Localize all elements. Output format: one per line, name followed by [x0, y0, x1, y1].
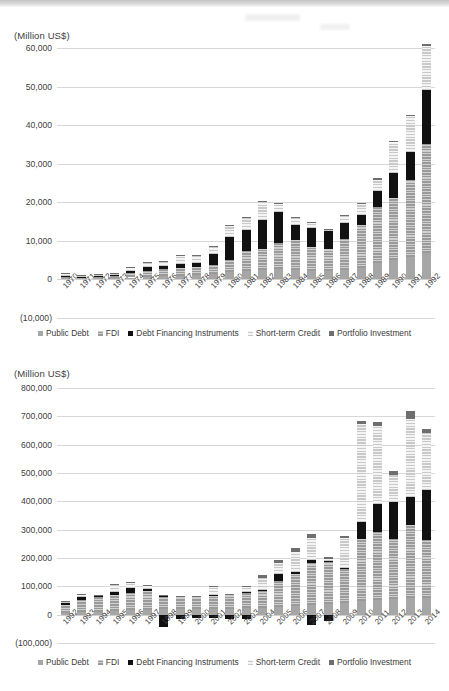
- bar-segment: [94, 274, 103, 275]
- bar-segment: [159, 597, 168, 610]
- bar-stack: [61, 388, 70, 643]
- legend-label: Debt Financing Instruments: [136, 328, 238, 338]
- legend-item[interactable]: Short-term Credit: [248, 328, 320, 338]
- legend-swatch-icon: [128, 660, 133, 665]
- bar-segment: [274, 574, 283, 581]
- bar-stack: [159, 388, 168, 643]
- bar-segment: [389, 539, 398, 599]
- legend-item[interactable]: FDI: [98, 328, 120, 338]
- bar-stack: [406, 388, 415, 643]
- bar-segment: [143, 591, 152, 609]
- bar-segment: [324, 249, 333, 272]
- bar-segment: [357, 225, 366, 267]
- bar-segment: [389, 141, 398, 142]
- legend-label: Portfolio Investment: [337, 657, 411, 667]
- bar-segment: [77, 594, 86, 595]
- bar-segment: [307, 560, 316, 563]
- bar-segment: [422, 46, 431, 91]
- bar-segment: [225, 226, 234, 238]
- y-axis-tick-label: (10,000): [5, 313, 52, 323]
- bar-segment: [110, 592, 119, 594]
- bar-segment: [143, 585, 152, 589]
- bar-stack: [77, 388, 86, 643]
- gridline: [57, 643, 435, 644]
- bar-segment: [192, 256, 201, 263]
- y-axis-tick-label: 10,000: [5, 236, 52, 246]
- bar-segment: [274, 203, 283, 211]
- bar-segment: [192, 255, 201, 256]
- bar-segment: [242, 251, 251, 271]
- bar-segment: [274, 563, 283, 573]
- bar-stack: [324, 388, 333, 643]
- bar-segment: [258, 249, 267, 270]
- y-axis-tick-label: (100,000): [5, 638, 52, 648]
- bar-segment: [209, 246, 218, 247]
- bar-segment: [225, 596, 234, 609]
- plot-area-bottom: 800,000700,000600,000500,000400,000300,0…: [57, 388, 435, 643]
- bar-segment: [126, 583, 135, 589]
- bar-segment: [422, 540, 431, 598]
- bar-segment: [110, 584, 119, 585]
- bar-segment: [373, 180, 382, 191]
- bar-segment: [389, 502, 398, 539]
- bar-stack: [389, 388, 398, 643]
- legend-item[interactable]: FDI: [98, 657, 120, 667]
- bar-segment: [176, 256, 185, 265]
- bar-segment: [209, 596, 218, 609]
- bar-segment: [225, 237, 234, 259]
- bar-segment: [242, 592, 251, 593]
- legend-item[interactable]: Short-term Credit: [248, 657, 320, 667]
- y-axis-tick-label: 0: [5, 274, 52, 284]
- bar-segment: [357, 539, 366, 601]
- bar-segment: [422, 433, 431, 490]
- legend-swatch-icon: [38, 660, 43, 665]
- bar-segment: [61, 603, 70, 605]
- bar-segment: [126, 268, 135, 271]
- legend-label: Public Debt: [46, 657, 89, 667]
- bar-segment: [159, 269, 168, 276]
- legend-swatch-icon: [329, 331, 334, 336]
- bar-segment: [192, 267, 201, 275]
- legend-item[interactable]: Debt Financing Instruments: [128, 657, 238, 667]
- bar-stack: [225, 388, 234, 643]
- bar-stack: [422, 388, 431, 643]
- y-axis-tick-label: 40,000: [5, 120, 52, 130]
- bar-stack: [357, 388, 366, 643]
- bar-segment: [77, 595, 86, 597]
- bar-segment: [406, 419, 415, 497]
- legend-label: FDI: [106, 328, 120, 338]
- legend-swatch-icon: [38, 331, 43, 336]
- bar-stack: [373, 388, 382, 643]
- legend-label: Short-term Credit: [256, 657, 320, 667]
- bar-segment: [61, 273, 70, 274]
- bar-segment: [258, 201, 267, 202]
- bar-segment: [143, 263, 152, 267]
- legend-swatch-icon: [248, 660, 253, 665]
- bar-segment: [422, 90, 431, 144]
- bar-segment: [242, 217, 251, 218]
- legend-item[interactable]: Public Debt: [38, 657, 89, 667]
- legend-label: Public Debt: [46, 328, 89, 338]
- bar-segment: [373, 422, 382, 426]
- bar-segment: [143, 262, 152, 263]
- legend-label: Debt Financing Instruments: [136, 657, 238, 667]
- y-axis-tick-label: 100,000: [5, 581, 52, 591]
- bar-segment: [209, 586, 218, 587]
- bar-segment: [357, 522, 366, 539]
- bar-segment: [307, 563, 316, 605]
- bar-segment: [77, 597, 86, 600]
- bar-segment: [159, 595, 168, 596]
- bar-segment: [357, 204, 366, 214]
- bar-segment: [126, 267, 135, 268]
- legend-swatch-icon: [329, 660, 334, 665]
- bar-segment: [143, 585, 152, 586]
- bar-segment: [192, 598, 201, 609]
- bar-segment: [357, 421, 366, 424]
- bar-segment: [126, 271, 135, 273]
- legend-item[interactable]: Public Debt: [38, 328, 89, 338]
- bar-segment: [422, 44, 431, 46]
- legend-item[interactable]: Debt Financing Instruments: [128, 328, 238, 338]
- legend-item[interactable]: Portfolio Investment: [329, 657, 411, 667]
- legend-item[interactable]: Portfolio Investment: [329, 328, 411, 338]
- bar-segment: [340, 239, 349, 271]
